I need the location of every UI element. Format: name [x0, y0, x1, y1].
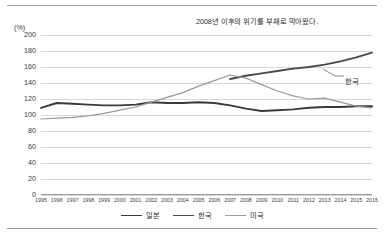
y-axis-tick-label: 120 [0, 95, 36, 102]
series-line-일본 [41, 102, 372, 111]
series-line-미국 [41, 75, 372, 119]
gridline [41, 195, 372, 196]
legend-item: 미국 [225, 212, 264, 219]
x-axis-tick-label: 1996 [51, 197, 63, 203]
x-axis-tick-label: 1999 [98, 197, 110, 203]
x-axis-tick-label: 2014 [335, 197, 347, 203]
x-axis-tick-label: 2004 [177, 197, 189, 203]
legend-label: 일본 [146, 212, 160, 219]
x-axis-tick-label: 2009 [256, 197, 268, 203]
x-axis-tick-label: 2007 [224, 197, 236, 203]
legend-swatch [121, 215, 142, 216]
y-axis-tick-label: 20 [0, 175, 36, 182]
x-axis-tick-label: 2010 [272, 197, 284, 203]
x-axis-tick-label: 2013 [319, 197, 331, 203]
x-axis-tick-label: 2003 [161, 197, 173, 203]
x-axis-tick-label: 2008 [240, 197, 252, 203]
y-axis-tick-label: 40 [0, 159, 36, 166]
legend-label: 한국 [198, 212, 212, 219]
x-axis-tick-label: 2015 [350, 197, 362, 203]
x-axis-tick-label: 2016 [366, 197, 378, 203]
x-axis-tick-label: 2002 [145, 197, 157, 203]
y-axis-tick-label: 140 [0, 79, 36, 86]
x-axis-tick-label: 2005 [193, 197, 205, 203]
chart-annotation: 2008년 이후의 위기를 부채로 막아왔다. [196, 16, 318, 26]
x-axis-tick-label: 2012 [303, 197, 315, 203]
korea-callout-leader [322, 68, 344, 78]
y-axis-tick-label: 0 [0, 191, 36, 198]
legend-label: 미국 [250, 212, 264, 219]
bottom-divider [7, 228, 377, 229]
legend-swatch [225, 215, 246, 216]
y-axis-tick-label: 80 [0, 127, 36, 134]
x-axis-tick-label: 1997 [67, 197, 79, 203]
x-axis-tick-label: 1995 [35, 197, 47, 203]
legend-item: 일본 [121, 212, 160, 219]
series-label-korea: 한국 [345, 75, 359, 86]
legend-item: 한국 [173, 212, 212, 219]
plot-area [41, 35, 372, 195]
series-lines [41, 35, 372, 195]
y-axis-tick-label: 180 [0, 47, 36, 54]
y-axis-tick-label: 200 [0, 31, 36, 38]
x-axis-tick-label: 2001 [130, 197, 142, 203]
y-axis-tick-label: 100 [0, 111, 36, 118]
x-axis-tick-label: 1998 [82, 197, 94, 203]
chart-figure: 2008년 이후의 위기를 부채로 막아왔다. (%) 200180160140… [0, 6, 384, 228]
x-axis-ticks: 1995199619971998199920002001200220032004… [41, 197, 372, 209]
y-axis-tick-label: 160 [0, 63, 36, 70]
x-axis-tick-label: 2006 [208, 197, 220, 203]
y-axis-ticks: 200180160140120100806040200 [0, 35, 36, 195]
legend-swatch [173, 215, 194, 216]
x-axis-tick-label: 2000 [114, 197, 126, 203]
y-axis-tick-label: 60 [0, 143, 36, 150]
chart-legend: 일본한국미국 [0, 212, 384, 219]
x-axis-tick-label: 2011 [287, 197, 298, 203]
x-axis-line [41, 194, 372, 195]
